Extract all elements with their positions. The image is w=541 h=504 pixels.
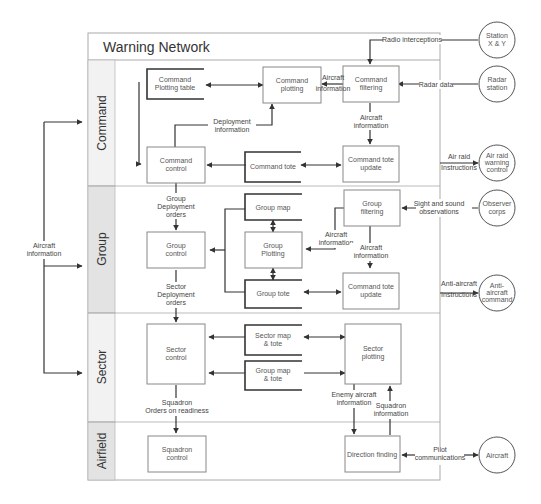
flow-label: Instructions [441, 291, 477, 298]
flow-label: information [319, 239, 354, 246]
flow-label-radio-interceptions: Radio interceptions [382, 36, 442, 44]
flow-label-aircraft-information: Aircraft [33, 242, 55, 249]
ext-label: control [486, 166, 507, 173]
flow-label: information [354, 122, 389, 129]
ext-label: Observer [483, 200, 512, 207]
box-label: filtering [361, 208, 384, 216]
flow-label: Aircraft [360, 244, 382, 251]
box-label: Squadron [162, 446, 192, 454]
diagram-title: Warning Network [103, 39, 211, 55]
box-label: plotting [281, 85, 304, 93]
flow-label: orders [166, 211, 186, 218]
flow-label: Group [166, 195, 186, 203]
flow-label: Orders on readiness [145, 407, 209, 414]
box-label: Group map [255, 367, 290, 375]
flow-label: Sight and sound [414, 200, 465, 208]
box-label: Sector map [255, 332, 291, 340]
box-label: control [165, 354, 186, 361]
lane-label-group: Group [95, 232, 109, 266]
flow-label: Enemy aircraft [331, 391, 376, 399]
ext-label: aircraft [486, 289, 507, 296]
ext-label: Station [486, 32, 508, 39]
box-label: Command [159, 76, 191, 83]
ext-label: Radar [487, 76, 507, 83]
lane-label-sector: Sector [95, 350, 109, 385]
flow-label: information [316, 85, 351, 92]
flow-label: Sector [166, 283, 187, 290]
warning-network-diagram: Warning Network Command Group Sector Air… [0, 0, 541, 504]
flow-label: observations [419, 208, 459, 215]
flow-label: information [354, 252, 389, 259]
box-label: Group [362, 200, 382, 208]
flow-label: Deployment [157, 291, 194, 299]
flow-label: Instructions [441, 164, 477, 171]
box-label: update [360, 291, 382, 299]
ext-label: station [487, 84, 508, 91]
box-label: update [360, 164, 382, 172]
flow-label: information [337, 399, 372, 406]
box-label: Sector [166, 346, 187, 353]
box-label: plotting [362, 353, 385, 361]
box-label: Command [160, 157, 192, 164]
box-label: Group map [255, 204, 290, 212]
box-label: Command [276, 77, 308, 84]
lane-label-airfield: Airfield [95, 433, 109, 470]
flow-label: Aircraft [322, 74, 344, 81]
box-label: Direction finding [347, 451, 397, 459]
flow-label: Air raid [448, 153, 470, 160]
flow-label: communications [415, 454, 466, 461]
flow-label: Deployment [213, 118, 250, 126]
flow-label-radar-data: Radar data [419, 81, 454, 88]
box-label: Sector [363, 345, 384, 352]
flow-label: orders [166, 299, 186, 306]
flow-label: Pilot [433, 446, 447, 453]
ext-label: Air raid [486, 152, 508, 159]
flow-label: Squadron [376, 402, 406, 410]
ext-label: corps [488, 208, 506, 216]
box-label: & tote [264, 340, 282, 347]
box-label: control [165, 250, 186, 257]
box-label: Group tote [256, 290, 289, 298]
ext-label: command [482, 296, 513, 303]
flow-label: Squadron [162, 399, 192, 407]
box-label: Command tote [348, 283, 394, 290]
ext-label: Anti- [490, 282, 505, 289]
ext-label: Aircraft [486, 452, 508, 459]
box-label: & tote [264, 375, 282, 382]
box-label: filtering [360, 84, 383, 92]
box-label: Group [166, 242, 186, 250]
lane-label-command: Command [95, 95, 109, 150]
flow-label: Aircraft [360, 114, 382, 121]
flow-label: Aircraft [325, 231, 347, 238]
flow-label-aircraft-information: information [27, 250, 62, 257]
flow-label: Deployment [157, 203, 194, 211]
box-label: control [166, 454, 187, 461]
box-label: Command tote [348, 156, 394, 163]
box-label: Command [355, 76, 387, 83]
flow-label: Anti-aircraft [441, 280, 477, 287]
flow-label: information [215, 126, 250, 133]
box-label: Group [263, 242, 283, 250]
box-label: control [165, 165, 186, 172]
ext-label: X & Y [488, 40, 506, 47]
box-label: Command tote [250, 163, 296, 170]
flow-label: information [374, 410, 409, 417]
box-label: Plotting table [155, 84, 196, 92]
box-label: Plotting [261, 250, 284, 258]
